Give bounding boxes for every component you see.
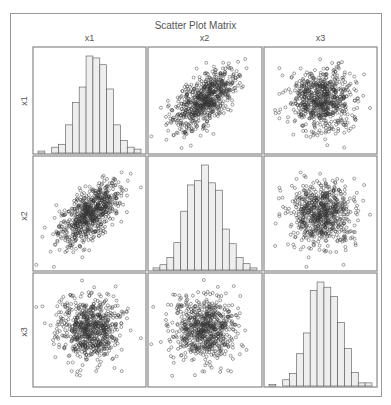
histogram-bar — [243, 264, 250, 270]
histogram-bar — [59, 144, 66, 153]
histogram-bar — [338, 323, 345, 386]
histogram-bar — [153, 268, 160, 270]
histogram-bar — [160, 265, 167, 270]
histogram-bar — [114, 125, 121, 153]
histogram-bar — [290, 374, 297, 386]
histogram-bar — [229, 244, 236, 270]
histogram-bar — [120, 140, 127, 153]
histogram-bar — [351, 372, 358, 386]
histogram-bar — [215, 190, 222, 270]
histogram-bar — [296, 354, 303, 386]
panel-x1-x3 — [264, 47, 377, 154]
scatter-matrix-plot — [0, 0, 391, 405]
histogram-bar — [93, 58, 100, 153]
histogram-bar — [365, 383, 372, 386]
histogram-bar — [79, 87, 86, 153]
histogram-bar — [202, 165, 209, 270]
histogram-bar — [38, 151, 45, 153]
histogram-bar — [167, 257, 174, 270]
histogram-bar — [331, 297, 338, 386]
panel-x1-x2 — [148, 47, 262, 154]
panel-x3-x3 — [264, 273, 377, 387]
histogram-bar — [208, 183, 215, 270]
panel-x3-x2 — [148, 273, 262, 387]
histogram-bar — [52, 147, 59, 153]
panel-x2-x1 — [33, 156, 146, 271]
histogram-bar — [174, 243, 181, 270]
histogram-bar — [250, 268, 257, 270]
panel-x2-x2 — [148, 156, 262, 271]
histogram-bar — [269, 385, 276, 387]
histogram-bar — [345, 349, 352, 386]
histogram-bar — [188, 185, 195, 270]
histogram-bar — [358, 383, 365, 386]
histogram-bar — [107, 89, 114, 153]
histogram-bar — [181, 211, 188, 270]
histogram-bar — [222, 229, 229, 270]
histogram-bar — [134, 149, 141, 153]
histogram-bar — [236, 257, 243, 270]
histogram-bar — [317, 282, 324, 386]
histogram-bar — [303, 333, 310, 386]
histogram-bar — [310, 290, 317, 386]
histogram-bar — [127, 147, 134, 153]
histogram-bar — [65, 125, 72, 153]
panel-x2-x3 — [264, 156, 377, 271]
histogram-bar — [72, 103, 79, 153]
histogram-bar — [195, 181, 202, 270]
histogram-bar — [86, 56, 93, 153]
histogram-bar — [100, 65, 107, 153]
panel-x1-x1 — [33, 47, 146, 154]
panel-x3-x1 — [33, 273, 146, 387]
histogram-bar — [324, 287, 331, 386]
histogram-bar — [283, 380, 290, 386]
